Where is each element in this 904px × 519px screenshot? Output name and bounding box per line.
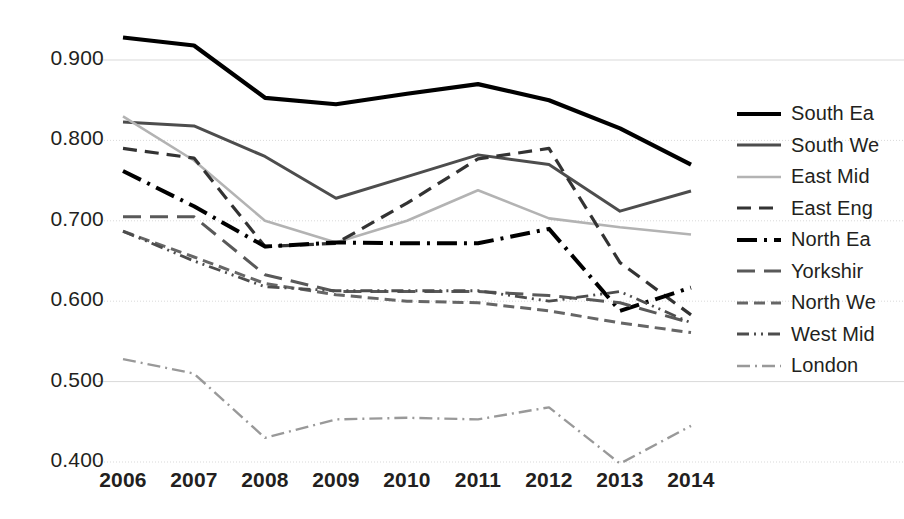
legend-item-yorkshir[interactable]: Yorkshir — [736, 256, 904, 288]
x-tick-label: 2012 — [511, 468, 587, 492]
legend-item-label: East Mid — [791, 165, 870, 188]
legend-item-label: South We — [791, 134, 879, 157]
legend-item-east-mid[interactable]: East Mid — [736, 161, 904, 193]
legend-swatch-icon — [736, 233, 782, 247]
y-tick-label: 0.500 — [18, 368, 104, 392]
series-line-yorkshir — [123, 217, 691, 323]
chart-legend: South EaSouth WeEast MidEast EngNorth Ea… — [736, 98, 904, 382]
legend-item-label: Yorkshir — [791, 260, 863, 283]
y-tick-label: 0.700 — [18, 207, 104, 231]
legend-item-south-we[interactable]: South We — [736, 130, 904, 162]
line-chart: 0.4000.5000.6000.7000.8000.900 200620072… — [0, 0, 904, 519]
x-tick-label: 2014 — [653, 468, 729, 492]
y-tick-label: 0.900 — [18, 46, 104, 70]
legend-swatch-icon — [736, 107, 782, 121]
y-tick-label: 0.600 — [18, 287, 104, 311]
x-tick-label: 2010 — [369, 468, 445, 492]
legend-item-label: North We — [791, 291, 876, 314]
legend-item-west-mid[interactable]: West Mid — [736, 319, 904, 351]
series-line-south-ea — [123, 37, 691, 164]
legend-item-north-ea[interactable]: North Ea — [736, 224, 904, 256]
legend-item-label: West Mid — [791, 323, 875, 346]
legend-swatch-icon — [736, 170, 782, 184]
legend-swatch-icon — [736, 327, 782, 341]
legend-item-label: North Ea — [791, 228, 871, 251]
legend-item-south-ea[interactable]: South Ea — [736, 98, 904, 130]
legend-swatch-icon — [736, 359, 782, 373]
legend-item-label: London — [791, 354, 858, 377]
legend-item-label: South Ea — [791, 102, 874, 125]
legend-item-east-eng[interactable]: East Eng — [736, 193, 904, 225]
x-tick-label: 2013 — [582, 468, 658, 492]
series-line-south-we — [123, 122, 691, 211]
legend-swatch-icon — [736, 264, 782, 278]
x-tick-label: 2011 — [440, 468, 516, 492]
x-tick-label: 2008 — [227, 468, 303, 492]
legend-swatch-icon — [736, 201, 782, 215]
legend-item-north-we[interactable]: North We — [736, 287, 904, 319]
y-tick-label: 0.800 — [18, 126, 104, 150]
series-line-london — [123, 359, 691, 464]
series-line-east-mid — [123, 116, 691, 242]
legend-swatch-icon — [736, 296, 782, 310]
x-tick-label: 2007 — [156, 468, 232, 492]
series-line-north-we — [123, 231, 691, 332]
x-tick-label: 2009 — [298, 468, 374, 492]
series-line-east-eng — [123, 148, 691, 314]
legend-item-label: East Eng — [791, 197, 873, 220]
legend-swatch-icon — [736, 138, 782, 152]
legend-item-london[interactable]: London — [736, 350, 904, 382]
series-lines — [123, 37, 691, 463]
x-tick-label: 2006 — [85, 468, 161, 492]
